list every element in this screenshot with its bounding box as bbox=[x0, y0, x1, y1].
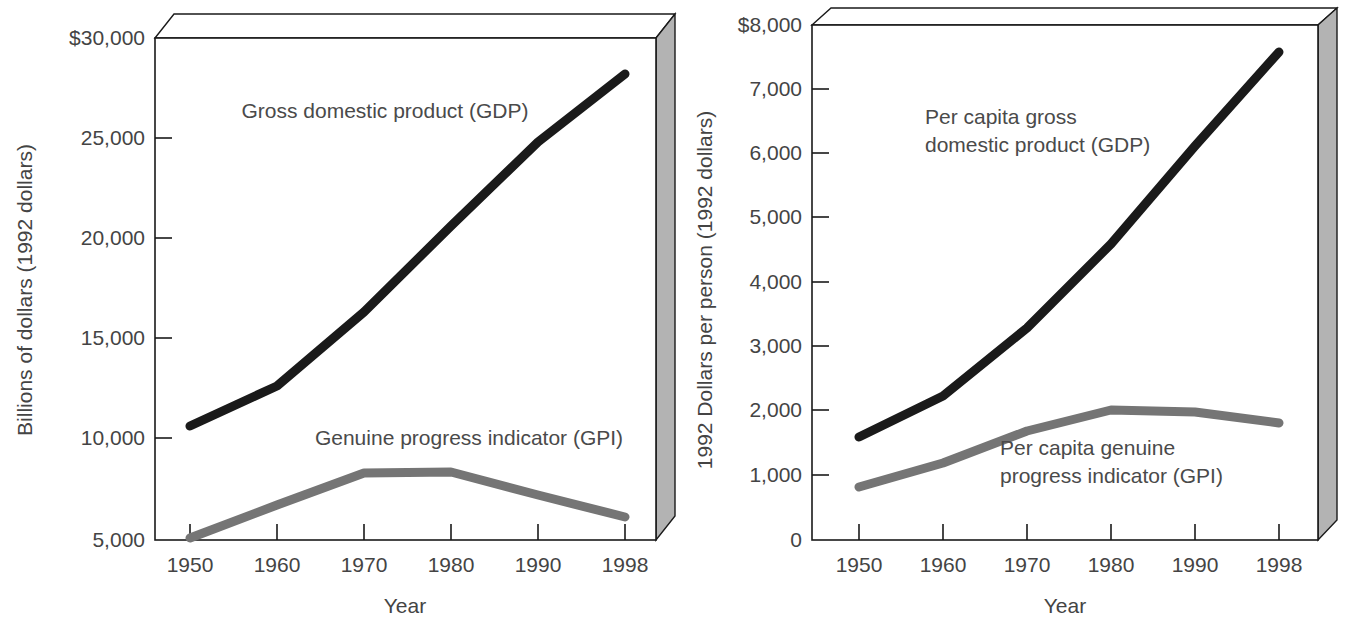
right-box-side-face bbox=[1318, 8, 1337, 540]
left-box-top-face bbox=[155, 14, 675, 38]
right-xtick-label-1970: 1970 bbox=[1004, 553, 1051, 576]
charts-svg: $30,000 25,000 20,000 15,000 10,000 5,00… bbox=[0, 0, 1355, 642]
left-annotation-gdp: Gross domestic product (GDP) bbox=[241, 99, 528, 122]
right-box-top-face bbox=[812, 8, 1337, 25]
right-ytick-label-5000: 5,000 bbox=[749, 205, 802, 228]
right-y-axis-title: 1992 Dollars per person (1992 dollars) bbox=[693, 111, 716, 469]
left-ytick-label-10000: 10,000 bbox=[81, 426, 145, 449]
left-ytick-label-20000: 20,000 bbox=[81, 226, 145, 249]
right-ytick-label-2000: 2,000 bbox=[749, 398, 802, 421]
left-y-axis-title: Billions of dollars (1992 dollars) bbox=[13, 144, 36, 436]
right-plot-area bbox=[812, 25, 1318, 540]
left-xtick-label-1990: 1990 bbox=[515, 553, 562, 576]
left-box-side-face bbox=[656, 14, 675, 540]
right-ytick-label-3000: 3,000 bbox=[749, 334, 802, 357]
right-ytick-label-7000: 7,000 bbox=[749, 77, 802, 100]
left-ytick-label-5000: 5,000 bbox=[92, 528, 145, 551]
left-chart: $30,000 25,000 20,000 15,000 10,000 5,00… bbox=[13, 14, 675, 617]
figure-container: $30,000 25,000 20,000 15,000 10,000 5,00… bbox=[0, 0, 1355, 642]
right-xtick-label-1980: 1980 bbox=[1088, 553, 1135, 576]
right-annotation-gpi-line2: progress indicator (GPI) bbox=[1000, 464, 1223, 487]
left-xtick-label-1960: 1960 bbox=[254, 553, 301, 576]
right-xtick-label-1950: 1950 bbox=[836, 553, 883, 576]
right-ytick-label-4000: 4,000 bbox=[749, 270, 802, 293]
right-xtick-label-1990: 1990 bbox=[1172, 553, 1219, 576]
left-xtick-label-1970: 1970 bbox=[341, 553, 388, 576]
left-annotation-gpi: Genuine progress indicator (GPI) bbox=[315, 426, 623, 449]
left-ytick-label-15000: 15,000 bbox=[81, 326, 145, 349]
left-x-axis-title: Year bbox=[384, 594, 426, 617]
left-xtick-label-1998: 1998 bbox=[602, 553, 649, 576]
right-xtick-label-1998: 1998 bbox=[1256, 553, 1303, 576]
left-ytick-label-30000: $30,000 bbox=[69, 26, 145, 49]
right-ytick-label-0: 0 bbox=[790, 528, 802, 551]
right-annotation-gpi-line1: Per capita genuine bbox=[1000, 436, 1175, 459]
left-ytick-label-25000: 25,000 bbox=[81, 126, 145, 149]
left-xtick-label-1980: 1980 bbox=[428, 553, 475, 576]
right-ytick-label-8000: $8,000 bbox=[738, 13, 802, 36]
right-chart: $8,000 7,000 6,000 5,000 4,000 3,000 2,0… bbox=[693, 8, 1337, 617]
left-xtick-label-1950: 1950 bbox=[167, 553, 214, 576]
right-annotation-gdp-line2: domestic product (GDP) bbox=[925, 133, 1150, 156]
right-ytick-label-1000: 1,000 bbox=[749, 463, 802, 486]
right-ytick-label-6000: 6,000 bbox=[749, 141, 802, 164]
right-x-axis-title: Year bbox=[1044, 594, 1086, 617]
right-xtick-label-1960: 1960 bbox=[920, 553, 967, 576]
right-annotation-gdp-line1: Per capita gross bbox=[925, 105, 1077, 128]
